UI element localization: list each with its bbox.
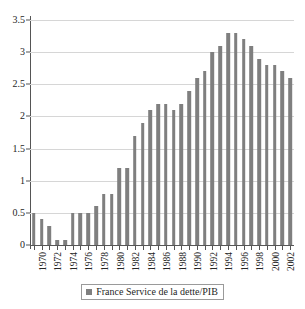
bar [288, 78, 292, 245]
x-axis-tickmark [127, 246, 128, 250]
bar-slot [38, 20, 46, 245]
bar-slot [247, 20, 255, 245]
x-axis-tickmark [251, 246, 252, 250]
bar-slot [84, 20, 92, 245]
bar [249, 46, 253, 245]
x-axis-tick-label: 1980 [116, 252, 126, 271]
bar [86, 213, 90, 245]
x-axis-tickmark [112, 246, 113, 250]
bar-slot [131, 20, 139, 245]
bar [195, 78, 199, 245]
x-axis-tickmark [57, 246, 58, 250]
x-axis-line [30, 245, 294, 246]
bar-slot [146, 20, 154, 245]
bar [133, 136, 137, 245]
bar-slot [30, 20, 38, 245]
chart-legend: France Service de la dette/PIB [0, 284, 305, 300]
x-axis-tickmark [189, 246, 190, 250]
bar [40, 219, 44, 245]
x-axis-tick-label: 1982 [131, 252, 141, 271]
x-axis-tickmark [104, 246, 105, 250]
bar [141, 123, 145, 245]
bar-slot [271, 20, 279, 245]
bar-slot [115, 20, 123, 245]
bar-slot [193, 20, 201, 245]
x-axis-tick-label: 1976 [84, 252, 94, 271]
bar-slot [263, 20, 271, 245]
bar [211, 52, 215, 245]
x-axis-tickmark [34, 246, 35, 250]
x-axis-tickmark [181, 246, 182, 250]
bar-slot [77, 20, 85, 245]
bar [172, 110, 176, 245]
x-axis-tickmark [197, 246, 198, 250]
x-axis-tick-label: 1998 [255, 252, 265, 271]
x-axis-tick-label: 1994 [224, 252, 234, 271]
bar-slot [69, 20, 77, 245]
chart-figure: 00.511.522.533.5 19701972197419761978198… [0, 0, 305, 309]
legend-box: France Service de la dette/PIB [81, 284, 224, 300]
bar-slot [61, 20, 69, 245]
x-axis-tickmark [282, 246, 283, 250]
x-axis-tick-label: 1978 [100, 252, 110, 271]
bars-layer [30, 20, 294, 245]
x-axis-tickmark [119, 246, 120, 250]
x-axis-tickmark [49, 246, 50, 250]
x-axis-tickmark [42, 246, 43, 250]
bar-slot [154, 20, 162, 245]
bar [110, 194, 114, 245]
legend-label: France Service de la dette/PIB [96, 286, 218, 297]
bar [234, 33, 238, 245]
bar [218, 46, 222, 245]
x-axis-tickmark [88, 246, 89, 250]
bar-slot [201, 20, 209, 245]
x-axis-tickmark [275, 246, 276, 250]
x-axis-tickmark [205, 246, 206, 250]
x-axis-tickmark [143, 246, 144, 250]
bar [265, 65, 269, 245]
bar-slot [139, 20, 147, 245]
x-axis-tickmark [267, 246, 268, 250]
bar [125, 168, 129, 245]
x-axis-tick-label: 1996 [240, 252, 250, 271]
bar-slot [178, 20, 186, 245]
bar-slot [278, 20, 286, 245]
legend-swatch-icon [86, 289, 92, 295]
x-axis-tick-label: 1990 [193, 252, 203, 271]
x-axis-tick-label: 1984 [147, 252, 157, 271]
bar-slot [224, 20, 232, 245]
x-axis-tickmark [73, 246, 74, 250]
bar-slot [286, 20, 294, 245]
x-axis-tick-label: 1988 [178, 252, 188, 271]
bar [273, 65, 277, 245]
bar-slot [46, 20, 54, 245]
x-axis-tick-label: 2000 [271, 252, 281, 271]
x-axis-tickmark [259, 246, 260, 250]
x-axis-tick-label: 1974 [69, 252, 79, 271]
x-axis-tickmark [158, 246, 159, 250]
bar-slot [185, 20, 193, 245]
x-axis-tickmark [228, 246, 229, 250]
bar [71, 213, 75, 245]
bar [242, 39, 246, 245]
bar [79, 213, 83, 245]
x-axis-tickmark [96, 246, 97, 250]
bar-slot [100, 20, 108, 245]
bar [149, 110, 153, 245]
x-axis-tickmark [244, 246, 245, 250]
bar [203, 71, 207, 245]
x-axis-tick-label: 1972 [53, 252, 63, 271]
x-axis-tick-label: 1986 [162, 252, 172, 271]
x-axis-tickmark [174, 246, 175, 250]
bar-slot [240, 20, 248, 245]
bar-slot [92, 20, 100, 245]
bar [226, 33, 230, 245]
bar [94, 206, 98, 245]
bar [187, 91, 191, 245]
x-axis-tickmark [290, 246, 291, 250]
bar-slot [209, 20, 217, 245]
bar [180, 104, 184, 245]
bar-slot [123, 20, 131, 245]
bar-slot [162, 20, 170, 245]
x-axis-tickmark [166, 246, 167, 250]
